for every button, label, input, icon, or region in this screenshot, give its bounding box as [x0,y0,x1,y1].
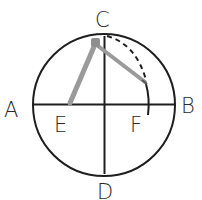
label-b: B [181,94,195,118]
label-d: D [97,180,113,200]
geometry-diagram: A B C D E F [0,0,202,200]
arc-mark-f [146,84,149,115]
compass-icon [70,38,147,103]
label-f: F [130,113,142,137]
label-c: C [95,8,110,32]
diagram-canvas: A B C D E F [0,0,202,200]
label-e: E [54,113,67,137]
label-a: A [4,98,18,122]
